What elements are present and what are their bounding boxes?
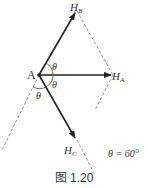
figure-caption: 图 1.20	[0, 168, 148, 185]
label-hb: HB	[69, 1, 83, 15]
dashed-construction-lines	[2, 11, 113, 175]
vector-hb	[39, 13, 75, 75]
angle-label-upper: θ	[52, 61, 57, 72]
label-hc: HC	[63, 144, 77, 158]
label-ha: HA	[111, 70, 125, 84]
vector-hc	[39, 75, 75, 138]
vector-diagram: A HB HA HC θ θ θ θ = 60°	[0, 0, 148, 188]
label-a: A	[27, 68, 36, 82]
angle-label-lower: θ	[52, 79, 57, 90]
angle-label-left: θ	[36, 90, 41, 101]
condition-text: θ = 60°	[108, 148, 139, 159]
point-a	[37, 73, 41, 77]
vectors	[39, 13, 111, 138]
